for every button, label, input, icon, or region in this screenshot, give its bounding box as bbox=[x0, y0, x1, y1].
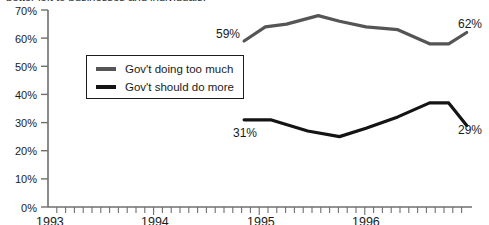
y-tick-70: 70% bbox=[15, 5, 37, 17]
label-gray-start: 59% bbox=[216, 27, 240, 41]
y-tick-10: 10% bbox=[15, 173, 37, 185]
y-tick-40: 40% bbox=[15, 89, 37, 101]
x-tick-1995: 1995 bbox=[247, 215, 275, 225]
y-tick-20: 20% bbox=[15, 145, 37, 157]
chart-plot-area: 0% 10% 20% 30% 40% 50% 60% 70% bbox=[0, 0, 489, 225]
x-tick-1994: 1994 bbox=[141, 215, 169, 225]
legend-entry-govt-doing-too-much: Gov't doing too much bbox=[96, 62, 233, 76]
legend-entry-govt-should-do-more: Gov't should do more bbox=[96, 80, 234, 94]
label-black-end: 29% bbox=[458, 123, 482, 137]
legend-swatch-black bbox=[96, 85, 116, 89]
y-tick-0: 0% bbox=[21, 202, 37, 214]
x-axis-labels: 1993 1994 1995 1996 bbox=[36, 215, 380, 225]
chart-legend: Gov't doing too much Gov't should do mor… bbox=[86, 55, 244, 99]
x-axis-minor-ticks bbox=[57, 207, 462, 215]
legend-label-black: Gov't should do more bbox=[125, 81, 234, 94]
y-axis-labels: 0% 10% 20% 30% 40% 50% 60% 70% bbox=[15, 5, 37, 214]
x-tick-1996: 1996 bbox=[352, 215, 380, 225]
y-tick-50: 50% bbox=[15, 61, 37, 73]
legend-label-gray: Gov't doing too much bbox=[125, 63, 233, 76]
y-axis-ticks bbox=[41, 10, 48, 207]
y-tick-30: 30% bbox=[15, 117, 37, 129]
series-line-govt-doing-too-much bbox=[244, 16, 467, 44]
series-line-govt-should-do-more bbox=[244, 103, 467, 137]
x-tick-1993: 1993 bbox=[36, 215, 64, 225]
label-black-start: 31% bbox=[233, 126, 257, 140]
y-tick-60: 60% bbox=[15, 33, 37, 45]
chart-container: better left to businesses and individual… bbox=[0, 0, 489, 225]
legend-swatch-gray bbox=[96, 67, 116, 71]
label-gray-end: 62% bbox=[458, 17, 482, 31]
